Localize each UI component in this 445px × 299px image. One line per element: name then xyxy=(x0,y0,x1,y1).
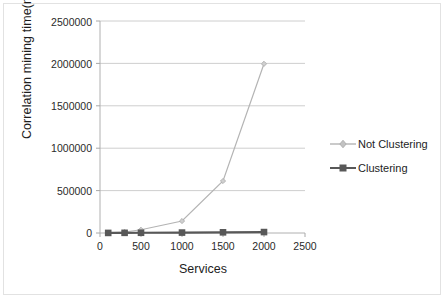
legend-label-not-clustering: Not Clustering xyxy=(358,138,428,150)
data-series-layer xyxy=(105,61,267,236)
legend-item-not-clustering[interactable]: Not Clustering xyxy=(330,132,442,156)
legend-label-clustering: Clustering xyxy=(358,162,408,174)
axis-tick-marks xyxy=(96,21,305,237)
series-clustering xyxy=(105,229,267,236)
data-point xyxy=(105,230,112,237)
data-point xyxy=(121,230,128,237)
data-point xyxy=(138,229,145,236)
chart-plot-area: Correlation mining time(ms) 0 500000 100… xyxy=(0,0,445,299)
chart-figure: Correlation mining time(ms) 0 500000 100… xyxy=(0,0,445,299)
data-point xyxy=(179,229,186,236)
data-point xyxy=(261,61,266,66)
series-line xyxy=(108,232,264,233)
legend-marker-clustering xyxy=(330,161,356,175)
legend-marker-not-clustering xyxy=(330,137,356,151)
data-point xyxy=(220,229,227,236)
chart-legend: Not Clustering Clustering xyxy=(330,132,442,180)
data-point xyxy=(261,229,268,236)
legend-item-clustering[interactable]: Clustering xyxy=(330,156,442,180)
